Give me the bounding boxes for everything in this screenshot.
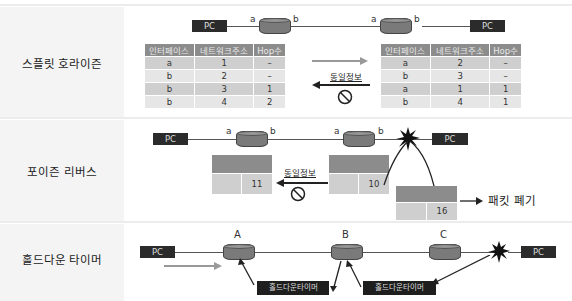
- link-line: [227, 26, 392, 27]
- table-row: b 2 –: [145, 70, 285, 82]
- table-row: b 4 2: [145, 96, 285, 108]
- routing-cell: [396, 203, 426, 220]
- table-row: b 3 1: [145, 83, 285, 95]
- port-label: b: [270, 126, 276, 136]
- table-header: Hop수: [490, 44, 521, 56]
- section-poison-reverse: 포이즌 리버스 PC a b a b PC 11 동일정보 10 16 패킷 폐…: [0, 117, 572, 221]
- port-label: a: [334, 126, 340, 136]
- pc-node-left: PC: [153, 133, 188, 145]
- section-title: 스플릿 호라이즌: [0, 55, 124, 71]
- pc-node-left: PC: [140, 246, 175, 258]
- table-row: a 1 –: [145, 57, 285, 69]
- router-icon: [259, 18, 291, 34]
- table-header: 인터페이스: [381, 44, 430, 56]
- routing-cell-header: [396, 186, 457, 202]
- table-row: a 2 –: [381, 57, 521, 69]
- port-label: a: [371, 14, 377, 24]
- router-icon: [236, 131, 268, 147]
- section-holddown-timer: 홀드다운 타이머 PC A B C PC 홀드다운타이머 홀드다운타이머: [0, 221, 572, 301]
- table-row: b 3 –: [381, 70, 521, 82]
- router-icon: [380, 18, 412, 34]
- routing-cell-header: [212, 155, 272, 173]
- routing-table-right: 인터페이스 네트워크주소 Hop수 a 2 – b 3 – a 1 1 b 4 …: [380, 43, 522, 109]
- divider: [0, 4, 572, 6]
- holddown-timer-label: 홀드다운타이머: [257, 281, 329, 295]
- arrow-right-icon: [460, 196, 484, 206]
- arrow-right-icon: [310, 56, 370, 66]
- router-label: C: [440, 229, 447, 240]
- table-header: Hop수: [254, 44, 285, 56]
- table-row: a 1 1: [381, 83, 521, 95]
- section-title: 포이즌 리버스: [0, 163, 124, 179]
- routing-table-left: 인터페이스 네트워크주소 Hop수 a 1 – b 2 – b 3 1 b 4 …: [144, 43, 286, 109]
- routing-cell: [329, 174, 358, 194]
- table-header: 인터페이스: [145, 44, 194, 56]
- pc-node-right: PC: [470, 20, 505, 32]
- holddown-timer-label: 홀드다운타이머: [363, 281, 436, 295]
- pc-node-right: PC: [521, 246, 556, 258]
- drop-label: 패킷 폐기: [488, 192, 536, 208]
- arrow-right-icon: [162, 261, 224, 271]
- divider: [0, 221, 572, 223]
- table-header: 네트워크주소: [431, 44, 490, 56]
- port-label: a: [226, 126, 232, 136]
- section-split-horizon: 스플릿 호라이즌 PC a b a b PC 인터페이스 네트워크주소 Hop수…: [0, 0, 572, 118]
- pc-node-left: PC: [192, 20, 227, 32]
- routing-cell-value: 11: [242, 174, 272, 194]
- prohibited-icon: [337, 89, 353, 105]
- router-label: A: [234, 229, 241, 240]
- table-row: b 4 1: [381, 96, 521, 108]
- table-header: 네트워크주소: [195, 44, 254, 56]
- divider: [0, 117, 572, 119]
- section-title: 홀드다운 타이머: [0, 251, 124, 267]
- link-line: [508, 252, 522, 253]
- port-label: b: [293, 14, 299, 24]
- link-line: [422, 26, 477, 27]
- routing-cell: [212, 174, 241, 194]
- blocked-label: 동일정보: [284, 166, 316, 178]
- prohibited-icon: [290, 186, 306, 202]
- port-label: a: [250, 14, 256, 24]
- routing-cell-value: 16: [427, 203, 457, 220]
- port-label: b: [414, 14, 420, 24]
- router-label: B: [342, 229, 349, 240]
